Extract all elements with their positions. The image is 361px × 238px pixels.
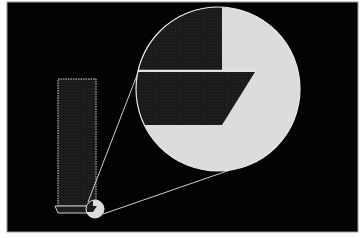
diagram-figure (0, 0, 361, 238)
tall-rectangle (58, 79, 96, 206)
diagram-canvas (0, 0, 361, 238)
